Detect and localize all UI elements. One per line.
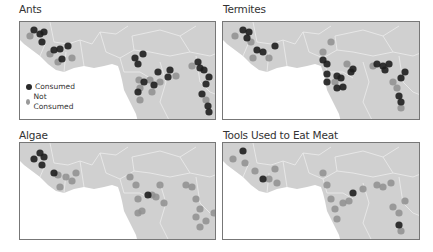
- data-point: [333, 84, 340, 91]
- data-point: [172, 72, 179, 79]
- data-point: [62, 173, 69, 180]
- data-point: [323, 70, 330, 77]
- map-tools-meat: [222, 142, 420, 240]
- data-point: [339, 83, 346, 90]
- data-point: [40, 153, 47, 160]
- data-point: [229, 155, 236, 162]
- legend-not-consumed: Not Consumed: [26, 92, 75, 112]
- data-point: [134, 88, 141, 95]
- data-point: [397, 98, 404, 105]
- data-point: [198, 90, 205, 97]
- data-point: [385, 60, 392, 67]
- data-point: [271, 165, 278, 172]
- data-point: [40, 28, 47, 35]
- data-point: [241, 159, 248, 166]
- data-point: [381, 66, 388, 73]
- data-point: [273, 179, 280, 186]
- data-point: [205, 108, 212, 115]
- data-point: [395, 221, 402, 228]
- data-point: [349, 65, 356, 72]
- data-point: [140, 78, 147, 85]
- data-point: [192, 195, 199, 202]
- data-point: [205, 73, 212, 80]
- data-point: [136, 96, 143, 103]
- data-point: [68, 54, 75, 61]
- data-point: [343, 60, 350, 67]
- data-point: [389, 78, 396, 85]
- data-point: [72, 169, 79, 176]
- data-point: [139, 50, 146, 57]
- data-point: [144, 191, 151, 198]
- data-point: [160, 199, 167, 206]
- data-point: [251, 167, 258, 174]
- data-point: [395, 209, 402, 216]
- data-point: [327, 195, 334, 202]
- data-point: [134, 60, 141, 67]
- data-point: [30, 155, 37, 162]
- map-legend: Consumed Not Consumed: [26, 82, 75, 112]
- data-point: [249, 54, 256, 61]
- data-point: [259, 175, 266, 182]
- data-point: [337, 74, 344, 81]
- data-point: [265, 54, 272, 61]
- legend-consumed: Consumed: [26, 82, 75, 92]
- data-point: [68, 177, 75, 184]
- panel-title: Termites: [223, 3, 266, 15]
- data-point: [30, 26, 37, 33]
- data-point: [166, 66, 173, 73]
- data-point: [393, 84, 400, 91]
- data-point: [188, 62, 195, 69]
- data-point: [271, 42, 278, 49]
- panel-title: Ants: [19, 3, 42, 15]
- data-point: [164, 73, 171, 80]
- data-point: [58, 55, 65, 62]
- data-point: [38, 161, 45, 168]
- data-point: [397, 74, 404, 81]
- data-point: [359, 185, 366, 192]
- data-point: [202, 80, 209, 87]
- data-point: [319, 48, 326, 55]
- data-point: [56, 45, 63, 52]
- data-point: [319, 169, 326, 176]
- panel-title: Algae: [19, 129, 48, 141]
- data-point: [188, 183, 195, 190]
- data-point: [150, 81, 157, 88]
- data-point: [323, 78, 330, 85]
- data-point: [231, 32, 238, 39]
- data-point: [259, 48, 266, 55]
- data-point: [323, 181, 330, 188]
- data-point: [196, 205, 203, 212]
- data-point: [200, 66, 207, 73]
- data-point: [196, 223, 203, 230]
- map-algae: [19, 142, 216, 240]
- data-point: [148, 88, 155, 95]
- data-point: [126, 173, 133, 180]
- data-point: [56, 183, 63, 190]
- data-point: [243, 34, 250, 41]
- data-point: [134, 195, 141, 202]
- data-point: [64, 42, 71, 49]
- dark-dot-icon: [26, 84, 32, 90]
- panel-title: Tools Used to Eat Meat: [223, 129, 338, 141]
- light-dot-icon: [26, 99, 30, 105]
- data-point: [331, 205, 338, 212]
- data-point: [204, 102, 211, 109]
- data-point: [327, 38, 334, 45]
- data-point: [387, 179, 394, 186]
- data-point: [192, 213, 199, 220]
- data-point: [401, 197, 408, 204]
- data-point: [239, 147, 246, 154]
- data-point: [50, 46, 57, 53]
- data-point: [333, 215, 340, 222]
- data-point: [132, 181, 139, 188]
- data-point: [156, 181, 163, 188]
- data-point: [401, 68, 408, 75]
- data-point: [38, 38, 45, 45]
- data-point: [345, 197, 352, 204]
- data-point: [138, 207, 145, 214]
- data-point: [349, 189, 356, 196]
- data-point: [26, 32, 33, 39]
- map-termites: [222, 21, 420, 120]
- data-point: [50, 169, 57, 176]
- data-point: [154, 68, 161, 75]
